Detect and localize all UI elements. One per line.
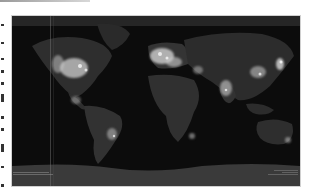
tick-mark [1, 184, 4, 187]
night-earth-map [11, 15, 301, 187]
top-border-bar [0, 0, 90, 2]
tick-mark [1, 42, 4, 44]
tick-mark [1, 94, 4, 102]
tick-mark [1, 24, 4, 26]
tick-mark [1, 144, 4, 152]
tick-mark [1, 128, 4, 131]
tick-mark [1, 116, 4, 119]
tick-mark [1, 58, 4, 60]
tick-mark [1, 70, 4, 73]
tick-mark [1, 166, 4, 168]
tick-mark [1, 82, 4, 85]
world-map-graphic [12, 16, 300, 186]
left-edge-ticks [0, 20, 6, 196]
